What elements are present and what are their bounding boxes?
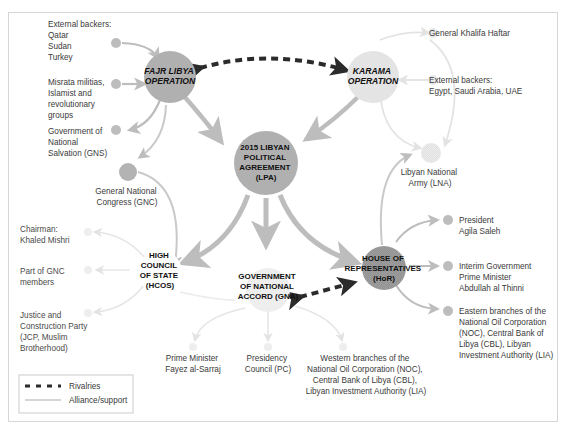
- node-dot-saleh[interactable]: [443, 215, 453, 225]
- label-thinni: Interim Government Prime Minister Abdull…: [459, 262, 534, 293]
- node-dot-fajr-backers[interactable]: [111, 38, 121, 48]
- node-dot-lna[interactable]: [421, 143, 441, 163]
- node-dot-eastern[interactable]: [443, 306, 453, 316]
- label-eastern: Eastern branches of the National Oil Cor…: [459, 307, 553, 360]
- node-dot-gnc[interactable]: [119, 163, 137, 181]
- node-dot-gns[interactable]: [111, 125, 121, 135]
- label-karama-backers: External backers: Egypt, Saudi Arabia, U…: [429, 76, 523, 96]
- node-dot-thinni[interactable]: [443, 261, 453, 271]
- label-lna: Libyan National Army (LNA): [401, 168, 460, 188]
- label-mishri: Chairman: Khaled Mishri: [20, 225, 70, 245]
- node-dot-sarraj[interactable]: [189, 343, 197, 351]
- label-western: Western branches of the National Oil Cor…: [306, 354, 427, 396]
- hub-label-fajr: FAJR LIBYA OPERATION: [144, 66, 196, 86]
- hub-label-hor: HOUSE OF REPRESENTATIVES (HoR): [345, 254, 424, 283]
- legend-alliance-label: Alliance/support: [69, 396, 128, 405]
- node-dot-misrata[interactable]: [111, 79, 121, 89]
- hub-label-karama: KARAMA OPERATION: [348, 66, 399, 86]
- node-dot-gnc-members[interactable]: [84, 266, 92, 274]
- node-dot-jcp[interactable]: [84, 309, 92, 317]
- label-jcp: Justice and Construction Party (JCP, Mus…: [20, 311, 90, 353]
- diagram-canvas: FAJR LIBYA OPERATION KARAMA OPERATION 20…: [0, 0, 565, 433]
- hub-label-gna: GOVERNMENT OF NATIONAL ACCORD (GNA): [238, 272, 299, 301]
- node-dot-mishri[interactable]: [84, 228, 92, 236]
- label-gns: Government of National Salvation (GNS): [48, 127, 107, 158]
- label-gnc-members: Part of GNC members: [20, 267, 67, 287]
- label-haftar: General Khalifa Haftar: [429, 29, 510, 38]
- label-misrata: Misrata militias, Islamist and revolutio…: [48, 78, 107, 120]
- legend-box: [19, 375, 133, 413]
- label-fajr-backers: External backers: Qatar Sudan Turkey: [48, 20, 114, 62]
- legend-rivalry-label: Rivalries: [69, 382, 100, 391]
- legend: Rivalries Alliance/support: [19, 375, 133, 413]
- label-saleh: President Agila Saleh: [459, 216, 501, 236]
- node-dot-pc[interactable]: [264, 343, 272, 351]
- node-dot-western[interactable]: [339, 343, 347, 351]
- label-gnc: General National Congress (GNC): [95, 187, 159, 207]
- label-sarraj: Prime Minister Fayez al-Sarraj: [165, 354, 221, 374]
- label-pc: Presidency Council (PC): [245, 354, 292, 374]
